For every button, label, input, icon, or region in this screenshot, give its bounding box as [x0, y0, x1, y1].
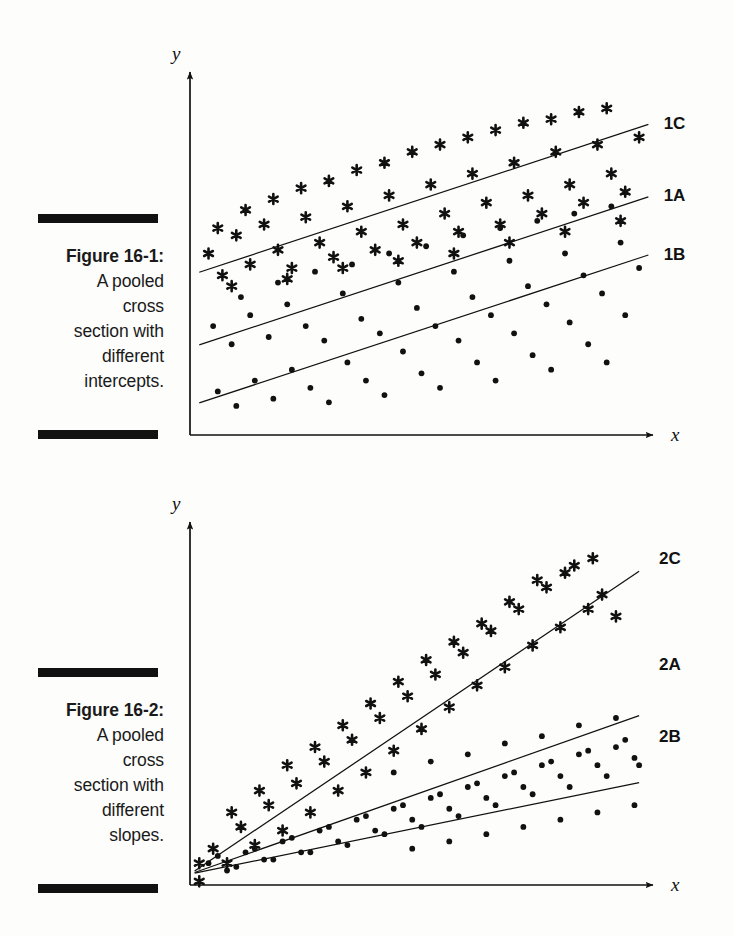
data-point-dot	[576, 722, 582, 728]
data-point-dot	[451, 269, 457, 275]
data-point-star	[385, 190, 394, 200]
data-point-star	[334, 786, 343, 796]
data-point-star	[283, 760, 292, 770]
data-point-star	[561, 568, 570, 578]
data-point-star	[524, 190, 533, 200]
data-point-dot	[562, 251, 568, 257]
data-point-dot	[502, 773, 508, 779]
fit-line-2a	[195, 716, 639, 873]
data-point-star	[237, 822, 246, 832]
data-point-dot	[446, 839, 452, 845]
data-point-dot	[567, 320, 573, 326]
data-point-dot	[247, 312, 253, 318]
data-point-dot	[400, 349, 406, 355]
data-point-star	[593, 140, 602, 150]
data-point-star	[612, 611, 621, 621]
data-point-dot	[317, 828, 323, 834]
data-point-star	[607, 169, 616, 179]
data-point-star	[371, 245, 380, 255]
series-2b: 2B	[195, 715, 681, 873]
data-point-dot	[511, 330, 517, 336]
data-point-dot	[409, 846, 415, 852]
data-point-star	[264, 800, 273, 810]
data-point-star	[510, 158, 519, 168]
data-point-star	[352, 165, 361, 175]
data-point-star	[426, 180, 435, 190]
data-point-star	[348, 735, 357, 745]
data-point-star	[616, 216, 625, 226]
data-point-dot	[534, 218, 540, 224]
data-point-dot	[270, 396, 276, 402]
data-point-star	[227, 281, 236, 291]
data-point-star	[241, 205, 250, 215]
data-point-dot	[400, 802, 406, 808]
data-point-star	[463, 132, 472, 142]
data-point-dot	[382, 392, 388, 398]
data-point-dot	[414, 305, 420, 311]
data-point-star	[413, 238, 422, 248]
data-point-dot	[632, 755, 638, 761]
data-point-dot	[618, 240, 624, 246]
data-point-star	[376, 713, 385, 723]
data-point-star	[417, 724, 426, 734]
data-point-star	[584, 604, 593, 614]
data-point-dot	[326, 399, 332, 405]
data-point-dot	[395, 280, 401, 286]
data-point-dot	[270, 857, 276, 863]
data-point-dot	[391, 770, 397, 776]
data-point-star	[338, 720, 347, 730]
data-point-dot	[608, 203, 614, 209]
data-point-star	[459, 648, 468, 658]
data-point-star	[283, 274, 292, 284]
data-point-dot	[599, 291, 605, 297]
data-point-dot	[345, 842, 351, 848]
series-1b: 1B	[199, 245, 685, 409]
data-point-dot	[446, 806, 452, 812]
data-point-star	[343, 201, 352, 211]
data-point-dot	[520, 784, 526, 790]
data-point-dot	[585, 341, 591, 347]
data-point-dot	[377, 330, 383, 336]
data-point-dot	[229, 341, 235, 347]
data-point-dot	[483, 795, 489, 801]
data-point-star	[468, 169, 477, 179]
data-point-dot	[502, 741, 508, 747]
data-point-star	[288, 263, 297, 273]
data-point-dot	[595, 762, 601, 768]
data-point-dot	[312, 269, 318, 275]
data-point-dot	[391, 806, 397, 812]
series-label-2b: 2B	[659, 727, 681, 746]
data-point-dot	[363, 378, 369, 384]
data-point-dot	[632, 802, 638, 808]
data-point-star	[477, 619, 486, 629]
data-point-dot	[636, 762, 642, 768]
data-point-star	[575, 107, 584, 117]
data-point-dot	[460, 232, 466, 238]
data-point-dot	[558, 817, 564, 823]
data-point-star	[366, 699, 375, 709]
data-point-dot	[493, 378, 499, 384]
data-point-dot	[571, 211, 577, 217]
data-point-dot	[595, 810, 601, 816]
y-axis-label: y	[170, 493, 181, 514]
data-point-dot	[636, 265, 642, 271]
data-point-star	[274, 245, 283, 255]
data-point-dot	[321, 338, 327, 344]
data-point-dot	[289, 835, 295, 841]
data-point-star	[357, 227, 366, 237]
data-point-star	[269, 194, 278, 204]
x-axis-label: x	[670, 424, 680, 445]
data-point-star	[218, 270, 227, 280]
data-point-dot	[349, 261, 355, 267]
data-point-dot	[303, 323, 309, 329]
data-point-star	[394, 677, 403, 687]
data-point-dot	[585, 748, 591, 754]
data-point-dot	[372, 828, 378, 834]
data-point-star	[450, 249, 459, 259]
data-point-dot	[507, 258, 513, 264]
data-point-dot	[525, 283, 531, 289]
data-point-star	[297, 183, 306, 193]
data-point-dot	[358, 316, 364, 322]
figure-1-plot: yx1C1A1B	[0, 0, 733, 470]
data-point-dot	[437, 791, 443, 797]
